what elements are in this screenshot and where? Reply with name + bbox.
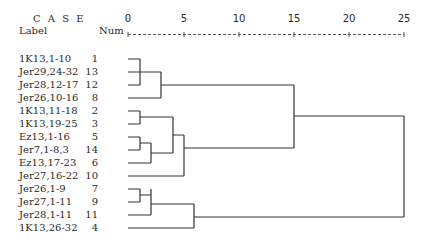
dendrogram-plot — [0, 0, 426, 245]
dendrogram-branches — [128, 59, 404, 228]
axis-line — [128, 32, 404, 37]
